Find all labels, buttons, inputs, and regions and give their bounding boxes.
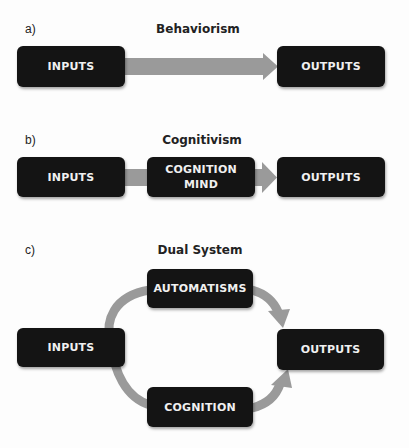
panel-c-title: Dual System — [100, 243, 300, 257]
arrow-a-inputs-to-outputs — [124, 53, 278, 80]
node-label: INPUTS — [48, 340, 95, 355]
node-label: INPUTS — [48, 59, 95, 74]
node-c-automatisms: AUTOMATISMS — [147, 269, 253, 308]
panel-b-title: Cognitivism — [102, 133, 302, 147]
arrow-c-automatisms-to-outputs — [252, 290, 290, 328]
node-label-line-2: MIND — [184, 177, 218, 192]
node-label: AUTOMATISMS — [153, 281, 246, 296]
node-label: INPUTS — [48, 170, 95, 185]
node-c-inputs: INPUTS — [17, 328, 125, 367]
node-label: COGNITION — [164, 400, 236, 415]
node-c-outputs: OUTPUTS — [277, 329, 384, 370]
panel-c-label: c) — [25, 243, 35, 257]
node-a-inputs: INPUTS — [17, 46, 125, 87]
node-label: OUTPUTS — [301, 59, 361, 74]
diagram-canvas: a) Behaviorism INPUTS OUTPUTS b) Cogniti… — [0, 0, 409, 448]
arrow-c-cognition-to-outputs — [252, 369, 292, 408]
node-label: OUTPUTS — [301, 170, 361, 185]
node-label-line-1: COGNITION — [165, 162, 237, 177]
node-b-outputs: OUTPUTS — [277, 157, 385, 197]
node-b-cognition-mind: COGNITION MIND — [147, 157, 255, 197]
node-label: OUTPUTS — [301, 342, 361, 357]
panel-b-label: b) — [25, 133, 36, 147]
panel-a-title: Behaviorism — [98, 22, 298, 36]
panel-a-label: a) — [25, 22, 36, 36]
node-a-outputs: OUTPUTS — [277, 46, 385, 87]
node-c-cognition: COGNITION — [147, 387, 253, 427]
node-b-inputs: INPUTS — [17, 157, 125, 197]
